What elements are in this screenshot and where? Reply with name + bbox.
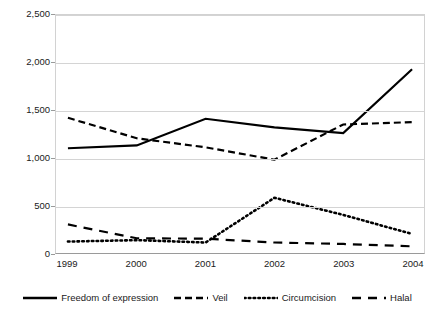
legend-swatch-solid bbox=[23, 293, 57, 303]
y-axis-tick-mark bbox=[51, 62, 55, 63]
x-axis: 199920002001200220032004 bbox=[55, 258, 425, 274]
gridline bbox=[56, 159, 424, 160]
legend-item-freedom-of-expression[interactable]: Freedom of expression bbox=[23, 293, 158, 303]
y-axis-tick-mark bbox=[51, 110, 55, 111]
y-axis-tick-label: 2,500 bbox=[2, 9, 50, 19]
y-axis-tick-mark bbox=[51, 14, 55, 15]
legend-item-halal[interactable]: Halal bbox=[352, 293, 412, 303]
x-axis-tick-label: 2004 bbox=[383, 258, 435, 269]
legend-item-veil[interactable]: Veil bbox=[174, 293, 227, 303]
series-line-halal bbox=[68, 224, 412, 246]
series-layer bbox=[56, 15, 424, 253]
gridline bbox=[56, 207, 424, 208]
y-axis-tick-label: 500 bbox=[2, 201, 50, 211]
x-axis-tick-label: 2000 bbox=[106, 258, 166, 269]
series-line-freedom-of-expression bbox=[68, 69, 412, 148]
legend-item-circumcision[interactable]: Circumcision bbox=[244, 293, 336, 303]
gridline bbox=[56, 15, 424, 16]
y-axis: 05001,0001,5002,0002,500 bbox=[0, 0, 50, 268]
y-axis-tick-label: 1,000 bbox=[2, 153, 50, 163]
x-axis-tick-label: 2001 bbox=[175, 258, 235, 269]
legend-swatch-dotted bbox=[244, 293, 278, 303]
chart-legend: Freedom of expressionVeilCircumcisionHal… bbox=[0, 288, 435, 308]
legend-label: Freedom of expression bbox=[61, 293, 158, 303]
legend-swatch-long-dash bbox=[352, 293, 386, 303]
legend-swatch-dashed bbox=[174, 293, 208, 303]
legend-label: Veil bbox=[212, 293, 227, 303]
y-axis-tick-mark bbox=[51, 158, 55, 159]
x-axis-tick-label: 2002 bbox=[245, 258, 305, 269]
y-axis-tick-mark bbox=[51, 206, 55, 207]
line-chart: 05001,0001,5002,0002,500 199920002001200… bbox=[0, 0, 435, 316]
y-axis-tick-label: 2,000 bbox=[2, 57, 50, 67]
plot-area bbox=[55, 14, 425, 254]
legend-label: Halal bbox=[390, 293, 412, 303]
x-axis-tick-label: 2003 bbox=[314, 258, 374, 269]
y-axis-tick-label: 1,500 bbox=[2, 105, 50, 115]
legend-label: Circumcision bbox=[282, 293, 336, 303]
x-axis-tick-label: 1999 bbox=[37, 258, 97, 269]
y-axis-tick-mark bbox=[51, 254, 55, 255]
gridline bbox=[56, 111, 424, 112]
gridline bbox=[56, 63, 424, 64]
